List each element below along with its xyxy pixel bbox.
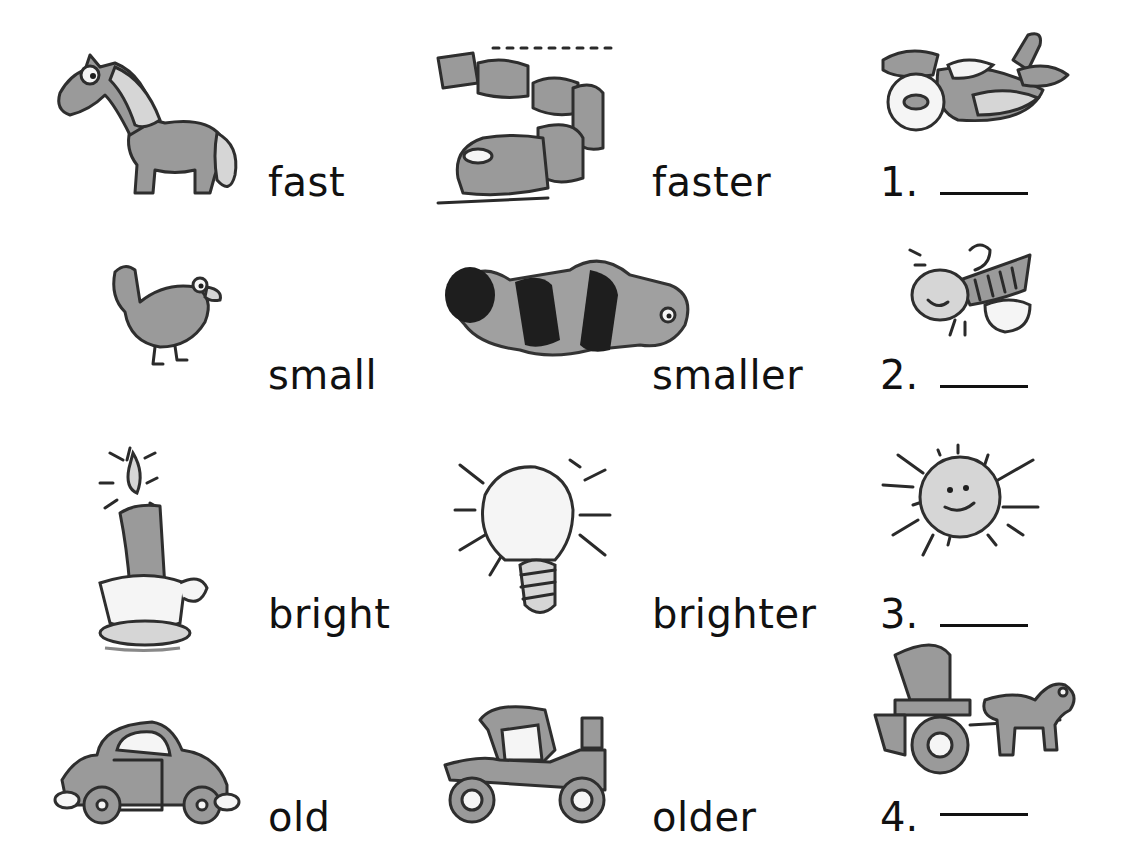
word-old: old: [268, 797, 330, 837]
bee-picture: [910, 240, 1040, 335]
answer-blank-4[interactable]: [940, 813, 1028, 816]
answer-blank-1[interactable]: [940, 192, 1028, 195]
answer-blank-3[interactable]: [940, 624, 1028, 627]
word-brighter: brighter: [652, 594, 816, 634]
train-picture: [433, 38, 618, 208]
candle-picture: [95, 448, 215, 653]
horse-carriage-picture: [875, 640, 1085, 775]
word-faster: faster: [652, 162, 771, 202]
exercise-number-3: 3.: [880, 594, 918, 634]
hen-picture: [105, 262, 230, 367]
answer-blank-2[interactable]: [940, 385, 1028, 388]
sun-picture: [878, 445, 1048, 560]
word-smaller: smaller: [652, 355, 803, 395]
word-older: older: [652, 797, 757, 837]
car-picture: [52, 710, 242, 825]
antique-car-picture: [440, 700, 620, 825]
exercise-number-1: 1.: [880, 162, 918, 202]
horse-picture: [45, 35, 240, 195]
light-bulb-picture: [455, 455, 615, 620]
caterpillar-picture: [440, 250, 695, 365]
word-bright: bright: [268, 594, 390, 634]
word-small: small: [268, 355, 377, 395]
exercise-number-2: 2.: [880, 355, 918, 395]
word-fast: fast: [268, 162, 345, 202]
exercise-number-4: 4.: [880, 797, 918, 837]
airplane-picture: [878, 30, 1068, 140]
